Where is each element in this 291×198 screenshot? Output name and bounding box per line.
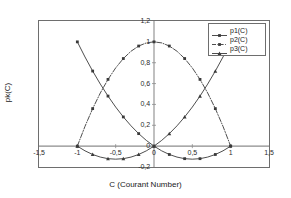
x-tick-label: 0	[144, 149, 164, 156]
legend-item: p1(C)	[211, 26, 263, 35]
legend-item: p2(C)	[211, 35, 263, 44]
x-tick-label: 1,5	[259, 149, 279, 156]
y-tick-label: 0,2	[130, 121, 150, 128]
legend-label: p3(C)	[228, 45, 248, 52]
y-tick-label: 1,2	[130, 17, 150, 24]
y-tick-label: 1	[130, 38, 150, 45]
y-tick-label: -0,2	[130, 163, 150, 170]
x-tick-label: 0,5	[182, 149, 202, 156]
y-tick-label: 0,4	[130, 100, 150, 107]
x-axis-title: C (Courant Number)	[0, 180, 291, 189]
legend-item: p3(C)	[211, 44, 263, 53]
y-tick-label: 0,8	[130, 59, 150, 66]
y-tick-label: 0,6	[130, 80, 150, 87]
legend-symbol-p1c	[211, 26, 228, 35]
legend-label: p1(C)	[228, 27, 248, 34]
y-tick-label: 0	[130, 142, 150, 149]
legend-symbol-p3c	[211, 44, 228, 53]
x-tick-label: -0,5	[106, 149, 126, 156]
x-tick-label: -1	[67, 149, 87, 156]
legend-symbol-p2c	[211, 35, 228, 44]
x-tick-label: -1,5	[29, 149, 49, 156]
x-tick-label: 1	[221, 149, 241, 156]
legend: p1(C)p2(C)p3(C)	[208, 23, 266, 56]
chart-figure: -0,200,20,40,60,811,2 -1,5-1-0,500,511,5…	[0, 0, 291, 198]
legend-label: p2(C)	[228, 36, 248, 43]
y-axis-title: pk(C)	[3, 70, 12, 116]
